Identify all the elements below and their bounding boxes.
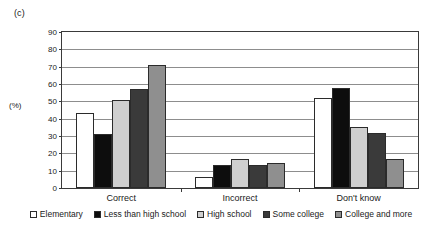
bar — [386, 159, 404, 188]
bar — [213, 165, 231, 188]
y-tick-mark — [59, 188, 62, 189]
legend-item: College and more — [335, 209, 412, 219]
x-tick-mark — [181, 188, 182, 192]
bar — [76, 113, 94, 188]
x-tick-mark — [299, 188, 300, 192]
bar — [267, 163, 285, 188]
legend-label: Elementary — [40, 209, 83, 219]
legend-swatch — [263, 211, 270, 218]
legend-swatch — [94, 211, 101, 218]
legend-item: Less than high school — [94, 209, 186, 219]
chart-figure: (c) (%) 9080706050403020100 CorrectIncor… — [0, 0, 442, 233]
legend-label: Less than high school — [104, 209, 186, 219]
bar-group — [62, 32, 181, 188]
bar — [94, 134, 112, 188]
bar — [314, 98, 332, 188]
bar-group — [299, 32, 418, 188]
legend-item: High school — [197, 209, 251, 219]
bar — [231, 159, 249, 188]
bar — [249, 165, 267, 188]
y-axis-title: (%) — [9, 101, 21, 111]
legend-label: College and more — [345, 209, 412, 219]
bars-layer — [62, 32, 418, 188]
bar-group — [181, 32, 300, 188]
legend-item: Some college — [263, 209, 325, 219]
plot-area: 9080706050403020100 CorrectIncorrectDon'… — [61, 31, 419, 189]
panel-label: (c) — [14, 8, 25, 19]
x-tick-label: Incorrect — [222, 193, 257, 204]
bar — [332, 88, 350, 188]
bar — [350, 127, 368, 188]
bar — [112, 100, 130, 188]
bar — [195, 177, 213, 188]
legend-label: High school — [207, 209, 251, 219]
bar — [368, 133, 386, 188]
legend-swatch — [30, 211, 37, 218]
x-tick-label: Don't know — [337, 193, 381, 204]
legend-swatch — [335, 211, 342, 218]
bar — [130, 89, 148, 188]
x-tick-label: Correct — [107, 193, 137, 204]
legend-swatch — [197, 211, 204, 218]
legend-item: Elementary — [30, 209, 83, 219]
chart-legend: ElementaryLess than high schoolHigh scho… — [0, 209, 442, 219]
bar — [148, 65, 166, 188]
legend-label: Some college — [273, 209, 325, 219]
